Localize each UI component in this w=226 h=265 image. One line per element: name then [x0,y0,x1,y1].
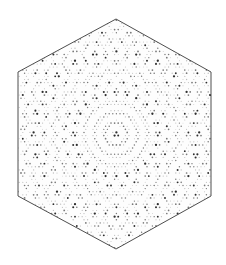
dot [87,150,88,151]
dot [38,141,39,142]
dot [132,147,134,149]
dot [125,154,126,155]
dot [183,110,184,111]
dot [175,191,177,193]
dot [205,82,207,84]
dot [129,210,130,211]
dot [182,185,183,186]
dot [72,51,74,53]
dot [173,194,175,196]
dot [152,144,153,145]
dot [115,206,117,208]
dot [105,69,106,70]
dot [196,110,198,112]
dot [172,160,173,161]
dot [90,194,92,196]
dot [157,141,158,142]
dot [118,110,119,111]
dot [148,144,149,145]
dot [33,194,35,196]
dot [69,51,70,52]
dot [119,225,121,227]
dot [161,104,162,105]
dot [143,185,144,186]
dot [202,101,203,102]
dot [114,229,115,230]
dot [69,151,70,152]
dot [128,35,130,37]
dot [72,144,74,146]
dot [177,181,179,183]
dot [123,38,124,39]
dot [72,163,74,165]
dot [161,197,162,198]
dot [96,110,97,111]
dot [136,135,137,136]
dot [197,85,198,86]
dot [110,110,111,111]
dot [125,135,126,136]
dot [96,160,97,161]
dot [94,181,96,183]
dot [195,144,197,146]
dot [54,75,56,77]
dot [19,107,20,108]
dot [103,160,104,161]
dot [67,72,69,74]
dot [51,63,52,64]
dot [54,132,56,134]
dot [60,204,61,205]
dot [35,204,36,205]
dot [177,194,178,195]
dot [117,122,119,124]
dot [204,73,205,74]
dot [56,72,58,74]
dot [96,222,97,223]
dot [164,153,166,155]
dot [76,82,78,84]
dot [208,160,209,161]
dot [101,150,102,151]
dot [204,191,205,192]
dot [91,213,92,214]
dot [56,172,57,173]
dot [31,73,32,74]
dot [207,153,209,155]
dot [37,101,38,102]
dot [38,104,39,105]
dot [74,179,75,180]
dot [76,113,77,114]
dot [206,101,207,102]
dot [35,122,37,124]
dot [69,188,70,189]
dot [94,107,95,108]
dot [117,72,119,74]
dot [184,163,185,164]
dot [98,144,99,145]
dot [44,82,45,83]
dot [69,132,70,133]
dot [184,94,185,95]
dot [85,216,86,217]
dot [26,76,27,77]
dot [71,135,73,137]
dot [209,194,210,195]
dot [114,60,116,62]
dot [188,194,189,195]
dot [134,44,135,45]
dot [87,63,89,65]
dot [98,44,99,45]
dot [125,60,126,61]
dot [126,150,127,151]
dot [67,153,69,155]
dot [105,126,106,127]
dot [26,163,28,165]
dot [204,116,205,117]
dot [79,69,81,71]
dot [94,200,95,201]
dot [105,232,106,233]
dot [92,66,93,67]
dot [24,91,25,92]
dot [115,175,117,177]
dot [188,144,189,145]
